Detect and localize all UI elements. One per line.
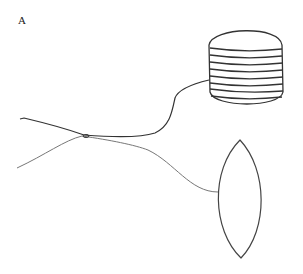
lens	[218, 140, 261, 258]
diagram-canvas	[0, 0, 303, 274]
spool	[209, 31, 283, 104]
dark-thread	[20, 80, 209, 137]
gray-thread	[17, 136, 218, 192]
